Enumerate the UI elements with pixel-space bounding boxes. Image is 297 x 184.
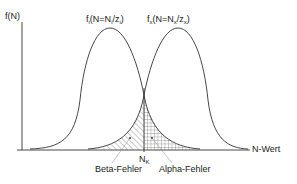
left-curve-label: fi(N=Ni/zi) [86, 15, 124, 25]
alpha-error-label: Alpha-Fehler [159, 165, 211, 174]
beta-error-label: Beta-Fehler [95, 165, 142, 174]
x-axis-label: N-Wert [252, 145, 280, 154]
y-axis-label: f(N) [5, 12, 20, 21]
left-distribution-curve [30, 28, 200, 149]
beta-error-area [95, 95, 144, 150]
right-curve-label: fx(N=Nx/zx) [147, 15, 190, 25]
alpha-error-area [144, 95, 195, 150]
right-distribution-curve [88, 28, 248, 149]
